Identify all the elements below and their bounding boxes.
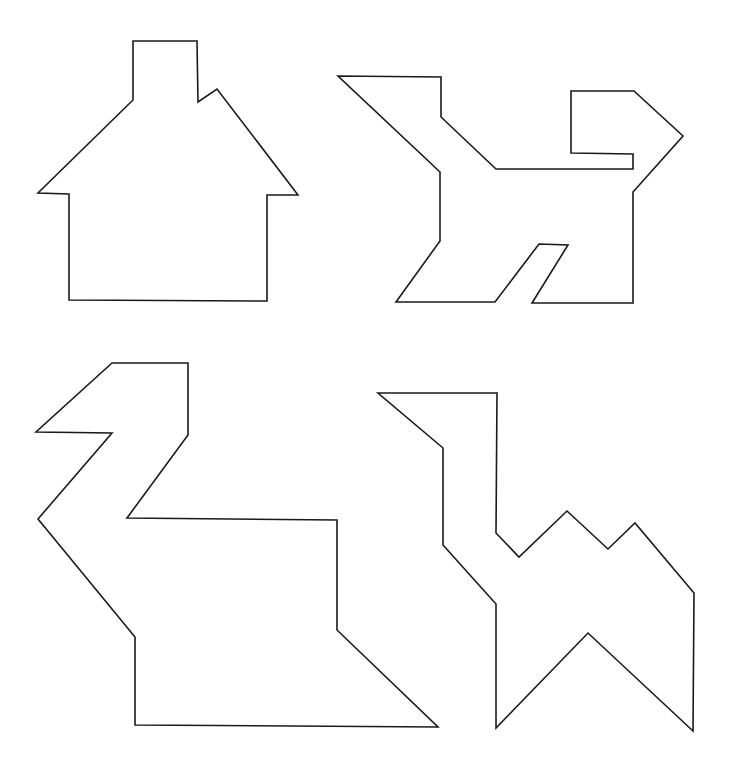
camel-shape: [378, 393, 694, 731]
tangram-svg: [0, 0, 732, 770]
tangram-figure: Four tangram silhouette outlines: [0, 0, 732, 770]
house-shape: [38, 41, 298, 301]
dog-shape: [338, 76, 683, 303]
swan-shape: [36, 363, 438, 727]
